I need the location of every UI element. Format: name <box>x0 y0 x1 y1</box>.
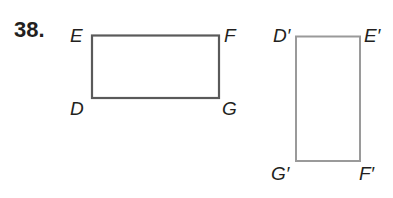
original-rectangle-defg <box>92 36 219 99</box>
vertex-label-f-prime: F′ <box>359 164 374 183</box>
vertex-label-g: G <box>222 99 237 118</box>
vertex-label-g-prime: G′ <box>271 164 289 183</box>
vertex-label-e-prime: E′ <box>364 26 380 45</box>
vertex-label-e: E <box>70 26 83 45</box>
vertex-label-f: F <box>224 26 236 45</box>
image-rectangle-defg-prime <box>296 37 360 162</box>
vertex-label-d: D <box>70 99 84 118</box>
vertex-label-d-prime: D′ <box>273 26 290 45</box>
figure-canvas <box>0 0 393 198</box>
